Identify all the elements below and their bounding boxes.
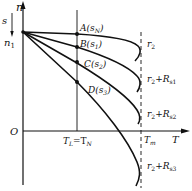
slip-arrow-head (10, 31, 13, 37)
origin-label: O (10, 126, 18, 137)
point-c-label: C(s2) (84, 59, 107, 70)
point-b-label: B(s1) (79, 39, 103, 50)
point-d-label: D(s3) (87, 85, 111, 96)
t-axis-label: T (172, 134, 180, 145)
point-a-dot (75, 32, 79, 36)
point-d-dot (75, 80, 79, 84)
load-torque-label: TL=TN (63, 136, 93, 147)
t-axis-arrow (181, 129, 190, 134)
max-torque-label: Tm (144, 135, 156, 146)
point-c-dot (75, 60, 79, 64)
curve-r2-rs3 (23, 32, 140, 186)
n1-label: n1 (4, 37, 15, 50)
n-axis-label: n (16, 1, 23, 14)
curve-r2-rs2-label: r2+Rs2 (147, 109, 177, 120)
slip-label: s (2, 15, 7, 26)
point-a-label: A(sN) (79, 23, 104, 34)
point-b-dot (75, 45, 79, 49)
curve-r2-rs1-label: r2+Rs1 (147, 74, 176, 85)
curve-r2-label: r2 (147, 39, 155, 50)
curve-r2-rs3-label: r2+Rs3 (147, 161, 177, 172)
n1-dot (21, 30, 25, 34)
speed-torque-diagram: n s n1 O T TL=TN Tm A(sN) B(s1) C(s2) D(… (0, 0, 192, 191)
